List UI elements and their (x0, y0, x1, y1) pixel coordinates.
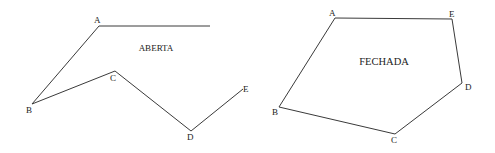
closed-polygon-edges (279, 18, 462, 134)
closed-vertex-label-c: C (391, 135, 397, 145)
open-vertex-label-e: E (243, 84, 249, 94)
closed-polygon: FECHADA AEDCB (272, 8, 472, 145)
closed-figure-title: FECHADA (359, 56, 409, 67)
closed-vertex-label-b: B (272, 107, 278, 117)
closed-vertex-label-a: A (329, 8, 336, 18)
closed-vertex-labels: AEDCB (272, 8, 472, 145)
open-figure-title: ABERTA (139, 43, 174, 53)
open-vertex-label-b: B (26, 105, 32, 115)
open-vertex-label-c: C (110, 73, 116, 83)
open-vertex-labels: ABCDE (26, 15, 249, 142)
open-polyline-edges (32, 26, 243, 131)
closed-vertex-label-e: E (449, 9, 455, 19)
open-polygonal-line: ABERTA ABCDE (26, 15, 249, 142)
open-vertex-label-a: A (94, 15, 101, 25)
open-vertex-label-d: D (187, 132, 194, 142)
closed-vertex-label-d: D (465, 82, 472, 92)
polygon-diagram: ABERTA ABCDE FECHADA AEDCB (0, 0, 495, 153)
